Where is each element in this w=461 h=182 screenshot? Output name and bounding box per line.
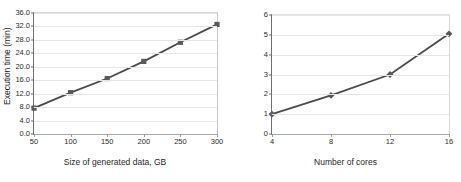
gridline [34,40,217,41]
y-tick-label: 5 [264,31,272,39]
gridline [34,94,217,95]
y-tick-label: 12.0 [15,90,34,98]
x-tick-label: 150 [101,138,114,146]
y-tick-label: 20.0 [15,63,34,71]
y-tick-label: 1 [264,110,272,118]
x-tick-label: 300 [211,138,224,146]
gridline [34,13,217,14]
chart-panel-speedup: 0123456481216 Number of cores Speedup [230,0,461,182]
two-panel-figure: 0.04.08.012.016.020.024.028.032.036.0501… [0,0,461,182]
x-tick-label: 4 [270,138,274,146]
gridline [272,75,449,76]
x-tick-label: 12 [386,138,394,146]
x-tick-label: 50 [30,138,38,146]
x-axis-label: Number of cores [230,158,461,167]
x-tick-label: 16 [445,138,453,146]
y-tick-label: 3 [264,71,272,79]
gridline [34,107,217,108]
x-axis-label: Size of generated data, GB [0,158,230,167]
plot-area-execution-time: 0.04.08.012.016.020.024.028.032.036.0501… [33,12,218,135]
chart-panel-execution-time: 0.04.08.012.016.020.024.028.032.036.0501… [0,0,230,182]
gridline [34,121,217,122]
gridline [272,94,449,95]
gridline [34,80,217,81]
gridline [272,55,449,56]
gridline [34,26,217,27]
y-tick-label: 4 [264,51,272,59]
gridline [272,35,449,36]
gridline [34,67,217,68]
y-axis-label: Execution time (min) [3,11,12,121]
data-point-marker [141,59,146,64]
x-tick-label: 250 [174,138,187,146]
plot-area-speedup: 0123456481216 [271,14,450,135]
series-line-execution-time [34,13,219,136]
y-tick-label: 32.0 [15,23,34,31]
y-tick-label: 36.0 [15,9,34,17]
series-line-speedup [272,15,451,136]
x-tick-label: 8 [329,138,333,146]
gridline [34,53,217,54]
y-tick-label: 28.0 [15,36,34,44]
y-tick-label: 4.0 [20,117,34,125]
gridline [272,114,449,115]
y-tick-label: 16.0 [15,76,34,84]
x-tick-label: 200 [138,138,151,146]
y-tick-label: 8.0 [20,103,34,111]
x-tick-label: 100 [64,138,77,146]
gridline [272,15,449,16]
y-tick-label: 6 [264,11,272,19]
y-tick-label: 24.0 [15,50,34,58]
y-tick-label: 2 [264,91,272,99]
